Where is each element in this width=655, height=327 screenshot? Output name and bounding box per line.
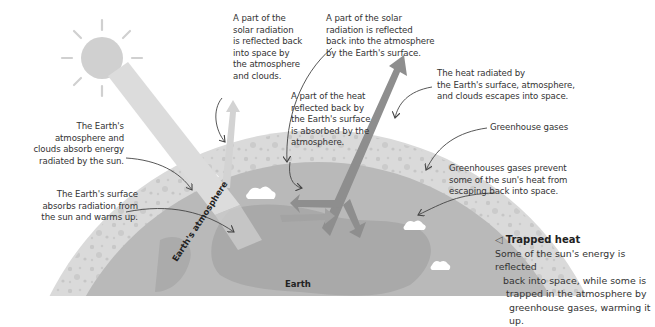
caption-title-text: Trapped heat xyxy=(506,234,581,245)
label-line: radiated by the sun. xyxy=(0,156,124,168)
label-reflected-by-surface: A part of the solar radiation is reflect… xyxy=(326,13,434,59)
label-greenhouse-gases: Greenhouse gases xyxy=(490,122,568,134)
label-line: is reflected back xyxy=(233,36,302,48)
label-line: and clouds. xyxy=(233,71,302,83)
label-line: The heat radiated by xyxy=(437,68,575,80)
trapped-heat-triangle-icon: ◁ xyxy=(495,234,503,245)
caption-title: ◁Trapped heat xyxy=(495,234,580,245)
label-line: atmosphere. xyxy=(291,137,370,149)
label-line: A part of the solar xyxy=(326,13,434,25)
label-greenhouse-prevent: Greenhouses gases prevent some of the su… xyxy=(449,163,567,198)
label-line: Greenhouses gases prevent xyxy=(449,163,567,175)
label-line: reflected back by xyxy=(291,103,370,115)
label-line: The Earth's surface xyxy=(0,189,138,201)
label-line: the sun and warms up. xyxy=(0,212,138,224)
label-line: The Earth's xyxy=(0,121,124,133)
caption-line: Some of the sun's energy is reflected xyxy=(495,247,655,274)
label-atmosphere-absorbs: The Earth's atmosphere and clouds absorb… xyxy=(0,121,124,167)
label-line: the atmosphere xyxy=(233,59,302,71)
label-line: is absorbed by the xyxy=(291,126,370,138)
label-line: clouds absorb energy xyxy=(0,144,124,156)
label-line: and clouds escapes into space. xyxy=(437,91,575,103)
label-line: atmosphere and xyxy=(0,133,124,145)
label-line: escaping back into space. xyxy=(449,186,567,198)
label-line: solar radiation xyxy=(233,25,302,37)
earth-label: Earth xyxy=(285,279,311,289)
label-line: A part of the xyxy=(233,13,302,25)
label-line: back into the atmosphere xyxy=(326,36,434,48)
label-line: some of the sun's heat from xyxy=(449,175,567,187)
label-line: absorbs radiation from xyxy=(0,201,138,213)
label-line: radiation is reflected xyxy=(326,25,434,37)
label-line: A part of the heat xyxy=(291,91,370,103)
caption-body: Some of the sun's energy is reflected ba… xyxy=(495,247,655,327)
label-heat-absorbed: A part of the heat reflected back by the… xyxy=(291,91,370,149)
caption-line: back into space, while some is xyxy=(495,274,655,287)
caption-line: greenhouse gases, warming it up. xyxy=(495,301,655,327)
label-line: by the Earth's surface. xyxy=(326,48,434,60)
label-heat-escapes: The heat radiated by the Earth's surface… xyxy=(437,68,575,103)
label-reflected-by-atmosphere: A part of the solar radiation is reflect… xyxy=(233,13,302,83)
label-surface-absorbs: The Earth's surface absorbs radiation fr… xyxy=(0,189,138,224)
caption-line: trapped in the atmosphere by xyxy=(495,287,655,300)
label-line: the Earth's surface, atmosphere, xyxy=(437,80,575,92)
label-line: into space by xyxy=(233,48,302,60)
label-line: the Earth's surface xyxy=(291,114,370,126)
